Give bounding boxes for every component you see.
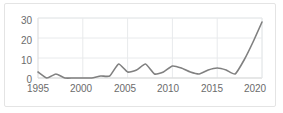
chart-figure: 30 20 10 0 1995 2000 2005 2010 2015 2020 [0, 0, 283, 113]
data-series-line [38, 22, 262, 78]
plot-area: 30 20 10 0 1995 2000 2005 2010 2015 2020 [0, 0, 283, 113]
chart-canvas [0, 0, 283, 113]
